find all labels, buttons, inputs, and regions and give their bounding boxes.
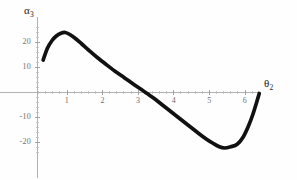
x-tick-label-4: 4 <box>172 97 176 105</box>
x-tick-label-2: 2 <box>100 97 104 105</box>
x-axis-title: θ2 <box>264 78 273 89</box>
data-curve <box>43 32 259 148</box>
x-axis-title-subscript: 2 <box>270 83 274 92</box>
y-tick-label-10: 10 <box>8 63 31 71</box>
y-tick-label-20: 20 <box>8 38 31 46</box>
plot-area <box>0 0 297 180</box>
y-axis-title: α3 <box>24 5 34 16</box>
x-tick-label-6: 6 <box>243 97 247 105</box>
y-tick-label--20: -20 <box>8 138 31 146</box>
x-tick-label-1: 1 <box>65 97 69 105</box>
chart-figure: 123456 2010-10-20 α3 θ2 <box>0 0 297 180</box>
x-axis-title-symbol: θ <box>264 77 269 89</box>
x-tick-label-3: 3 <box>136 97 140 105</box>
y-tick-label--10: -10 <box>8 113 31 121</box>
axes-group <box>0 17 258 178</box>
x-tick-label-5: 5 <box>207 97 211 105</box>
y-axis-title-subscript: 3 <box>30 10 34 19</box>
y-axis-title-symbol: α <box>24 4 30 16</box>
